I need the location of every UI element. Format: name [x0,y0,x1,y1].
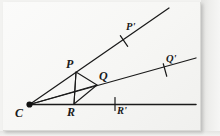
segment-C-to-Q [30,85,98,105]
tick-Q-prime [163,64,166,77]
label-Q: Q [99,70,108,82]
label-R: R [67,106,75,118]
inner-segment-group [30,72,98,105]
screenshot-root: C P Q R P' Q' R' [0,0,220,136]
label-R-prime: R' [117,106,127,117]
label-P-prime: P' [126,22,135,33]
upper-ray [30,8,170,105]
vertex-point-C [26,101,32,107]
label-P: P [66,58,73,70]
label-C: C [15,107,23,119]
geometry-figure [0,0,220,136]
label-Q-prime: Q' [166,54,177,65]
